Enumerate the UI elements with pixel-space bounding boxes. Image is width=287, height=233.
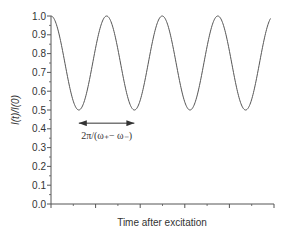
x-axis-ticks (51, 204, 274, 208)
period-annotation: 2π/(ω₊− ω₋) (81, 130, 132, 142)
y-tick-label: 0.4 (32, 123, 46, 134)
chart-figure: 0.00.10.20.30.40.50.60.70.80.91.0 2π/(ω₊… (0, 0, 287, 233)
y-tick-label: 1.0 (32, 11, 46, 22)
y-tick-label: 0.6 (32, 86, 46, 97)
y-tick-label: 0.0 (32, 199, 46, 210)
y-tick-label: 0.3 (32, 142, 46, 153)
y-tick-label: 0.5 (32, 105, 46, 116)
y-tick-label: 0.7 (32, 67, 46, 78)
y-tick-label: 0.1 (32, 180, 46, 191)
x-axis-label: Time after excitation (117, 217, 207, 228)
intensity-curve (51, 16, 271, 110)
y-tick-label: 0.8 (32, 48, 46, 59)
y-tick-label: 0.9 (32, 29, 46, 40)
y-tick-label: 0.2 (32, 161, 46, 172)
y-axis-label: I(t)/I(0) (10, 95, 21, 125)
y-axis-ticks: 0.00.10.20.30.40.50.60.70.80.91.0 (32, 11, 51, 210)
